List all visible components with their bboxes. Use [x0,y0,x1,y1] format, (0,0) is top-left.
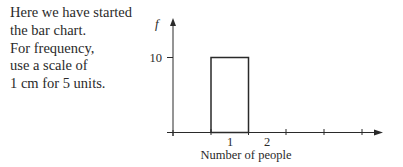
x-tick-label: 1 [227,135,233,149]
y-axis-arrow-icon [170,18,176,26]
x-tick-label: 2 [264,135,270,149]
y-tick-label: 10 [150,51,163,65]
x-axis-arrow-icon [374,130,383,136]
x-axis-label: Number of people [201,148,292,162]
bar-category-1 [211,58,249,133]
y-axis-label: f [155,16,161,31]
bar-chart: f 10 1 2 Number of people [0,0,403,167]
